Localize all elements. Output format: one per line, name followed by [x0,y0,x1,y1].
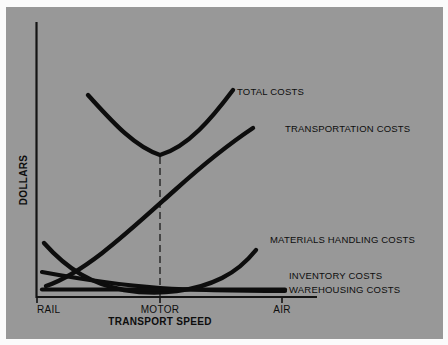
cost-tradeoff-chart: DOLLARS TRANSPORT SPEED RAIL MOTOR AIR T… [0,0,448,345]
series-label-inventory-costs: INVENTORY COSTS [289,270,382,281]
series-label-total-costs: TOTAL COSTS [237,86,304,97]
series-label-warehousing-costs: WAREHOUSING COSTS [289,284,400,295]
x-tick-label-motor: MOTOR [141,304,180,315]
x-axis-title: TRANSPORT SPEED [108,316,211,327]
curve-total-costs [88,90,233,155]
y-axis-title: DOLLARS [18,155,29,205]
x-tick-label-air: AIR [273,304,291,315]
x-tick-label-rail: RAIL [37,304,61,315]
series-label-materials-handling-costs: MATERIALS HANDLING COSTS [270,234,415,245]
chart-screenshot: DOLLARS TRANSPORT SPEED RAIL MOTOR AIR T… [0,0,448,345]
series-label-transportation-costs: TRANSPORTATION COSTS [285,123,410,134]
